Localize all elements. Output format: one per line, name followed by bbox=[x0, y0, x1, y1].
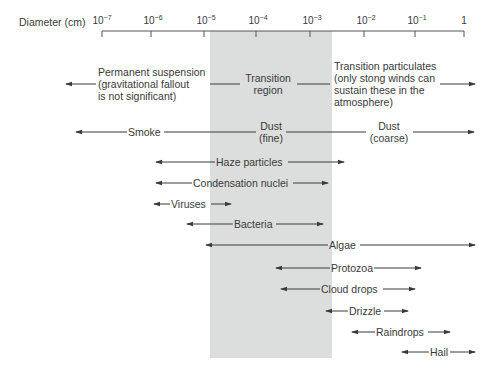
smoke-label: Smoke bbox=[128, 126, 161, 138]
cloud-drops-label: Cloud drops bbox=[321, 283, 378, 295]
haze-particles-label: Haze particles bbox=[216, 156, 283, 168]
diagram-lines bbox=[0, 0, 494, 378]
drizzle-label: Drizzle bbox=[349, 305, 381, 317]
raindrops-label: Raindrops bbox=[376, 326, 424, 338]
protozoa-label: Protozoa bbox=[331, 262, 373, 274]
condensation-nuclei-label: Condensation nuclei bbox=[193, 177, 288, 189]
dust-fine-label: Dust (fine) bbox=[259, 120, 283, 144]
dust-coarse-label: Dust (coarse) bbox=[370, 120, 409, 144]
algae-label: Algae bbox=[329, 239, 356, 251]
hail-label: Hail bbox=[430, 346, 448, 358]
transition-particulates-label: Transition particulates (only stong wind… bbox=[334, 60, 436, 108]
transition-region-label: Transition region bbox=[245, 72, 291, 96]
particle-size-diagram: Diameter (cm) 10−7 10−6 10−5 10−4 10−3 1… bbox=[0, 0, 494, 378]
bacteria-label: Bacteria bbox=[234, 218, 273, 230]
viruses-label: Viruses bbox=[171, 198, 206, 210]
permanent-suspension-label: Permanent suspension (gravitational fall… bbox=[98, 66, 205, 102]
